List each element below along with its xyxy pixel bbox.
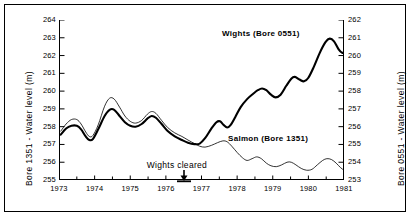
left-tick-258: 258	[43, 122, 56, 131]
right-axis-tick-labels: 253254255256257258259260261262	[348, 20, 372, 180]
right-tick-259: 259	[348, 68, 361, 77]
right-tick-256: 256	[348, 122, 361, 131]
right-tick-255: 255	[348, 139, 361, 148]
left-tick-256: 256	[43, 157, 56, 166]
x-tick-1980: 1980	[300, 184, 318, 193]
right-tick-260: 260	[348, 51, 361, 60]
right-tick-258: 258	[348, 86, 361, 95]
plot-area	[59, 20, 344, 180]
right-tick-257: 257	[348, 104, 361, 113]
left-tick-264: 264	[43, 15, 56, 24]
x-tick-1975: 1975	[122, 184, 140, 193]
left-axis-tick-labels: 255256257258259260261262263264	[35, 20, 56, 180]
left-tick-259: 259	[43, 104, 56, 113]
x-tick-1978: 1978	[228, 184, 246, 193]
event-marker-arrow-icon	[173, 170, 195, 184]
event-annotation-label: Wights cleared	[147, 160, 207, 170]
x-tick-1979: 1979	[264, 184, 282, 193]
left-tick-262: 262	[43, 51, 56, 60]
series-label-salmon: Salmon (Bore 1351)	[228, 134, 308, 143]
chart-figure: Bore 1351 - Water level (m) Bore 0551 - …	[0, 0, 410, 216]
x-axis-tick-labels: 197319741975197619771978197919801981	[59, 184, 344, 198]
x-tick-1981: 1981	[335, 184, 353, 193]
right-tick-261: 261	[348, 33, 361, 42]
right-tick-254: 254	[348, 157, 361, 166]
right-axis-title: Bore 0551 - Water level (m)	[396, 71, 406, 186]
left-tick-257: 257	[43, 139, 56, 148]
x-tick-1977: 1977	[193, 184, 211, 193]
right-tick-253: 253	[348, 175, 361, 184]
x-tick-1976: 1976	[157, 184, 175, 193]
series-line-wights	[61, 39, 344, 145]
x-tick-1973: 1973	[50, 184, 68, 193]
axis-tick-marks	[59, 20, 344, 180]
plot-svg	[59, 20, 344, 180]
left-tick-260: 260	[43, 86, 56, 95]
x-tick-1974: 1974	[86, 184, 104, 193]
axis-lines	[59, 20, 344, 180]
series-label-wights: Wights (Bore 0551)	[222, 29, 300, 38]
left-tick-263: 263	[43, 33, 56, 42]
right-tick-262: 262	[348, 15, 361, 24]
left-axis-title: Bore 1351 - Water level (m)	[24, 71, 34, 186]
left-tick-255: 255	[43, 175, 56, 184]
left-tick-261: 261	[43, 68, 56, 77]
